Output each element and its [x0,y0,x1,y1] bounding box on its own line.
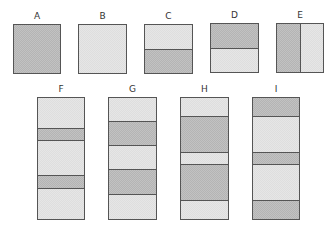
shaded-region-light [145,25,192,49]
shaded-region-dark [38,175,84,188]
figure-label: D [210,10,260,20]
shaded-region-light [109,145,156,169]
figure-f [37,97,85,220]
figure-a [13,24,61,74]
shaded-region-light [211,48,258,72]
figure-d [210,23,259,73]
shaded-region-light [300,24,323,72]
shaded-region-light [109,98,156,121]
shaded-region-dark [253,152,299,164]
figure-c [144,24,193,74]
shaded-region-dark [109,121,156,145]
shaded-region-light [181,200,228,219]
figure-label: C [144,11,194,21]
figure-label: I [251,84,301,94]
shaded-region-dark [181,116,228,152]
shaded-region-light [253,116,299,152]
shaded-region-light [181,152,228,164]
figure-e [276,23,324,73]
shaded-region-dark [145,49,192,73]
shaded-region-light [38,188,84,219]
shaded-region-light [38,140,84,175]
shaded-region-dark [14,25,60,73]
figure-g [108,97,157,220]
shaded-region-dark [253,200,299,219]
figure-label: B [78,11,128,21]
figure-label: E [275,10,325,20]
figure-h [180,97,229,220]
figure-label: H [180,84,230,94]
shaded-region-dark [38,128,84,141]
shaded-region-dark [211,24,258,48]
figure-i [252,97,300,220]
shaded-region-dark [277,24,300,72]
shaded-region-light [79,25,126,73]
shaded-region-light [181,98,228,116]
shaded-region-light [38,98,84,128]
shaded-region-dark [181,164,228,200]
figure-label: G [108,84,158,94]
figure-label: A [12,11,62,21]
shaded-region-dark [109,169,156,193]
figure-label: F [36,84,86,94]
shaded-region-light [109,194,156,219]
shaded-region-dark [253,98,299,116]
shaded-region-light [253,164,299,200]
figure-b [78,24,127,74]
